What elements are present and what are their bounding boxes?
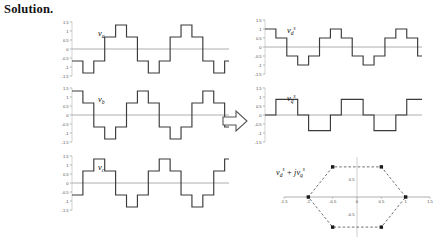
svg-text:0: 0 [66,181,69,186]
hexagon-title: vds + jvqs [276,166,305,178]
chart-v-d-s: 1.510.50-0.5-1-1.5vds [248,16,426,80]
svg-text:-1: -1 [65,199,69,204]
svg-text:1.5: 1.5 [63,154,69,159]
svg-text:0: 0 [66,47,69,52]
svg-text:vqs: vqs [287,93,296,105]
svg-text:1.5: 1.5 [256,86,262,91]
page-title: Solution. [4,2,53,17]
svg-text:-1: -1 [65,65,69,70]
svg-text:vb: vb [98,94,105,105]
svg-text:0: 0 [66,113,69,118]
hexagon-title-sup1: s [282,166,284,172]
svg-text:-1.5: -1.5 [255,72,263,77]
chart-v-c: 1.510.50-0.5-1-1.5vc [56,152,233,216]
svg-text:-1.5: -1.5 [62,140,70,145]
svg-text:-1: -1 [258,131,262,136]
svg-text:-0.5: -0.5 [62,56,70,61]
svg-text:0.5: 0.5 [378,199,384,204]
svg-text:0: 0 [356,199,359,204]
hexagon-title-op: + j [287,168,297,177]
svg-text:0: 0 [259,113,262,118]
svg-text:vc: vc [98,162,105,173]
svg-text:0.5: 0.5 [349,177,355,182]
right-arrow-icon [222,109,248,133]
svg-text:-0.5: -0.5 [329,199,337,204]
chart-v-a: 1.510.50-0.5-1-1.5va [56,18,233,82]
svg-text:1: 1 [66,29,69,34]
svg-text:-0.5: -0.5 [347,212,355,217]
svg-text:1: 1 [259,95,262,100]
svg-text:-0.5: -0.5 [255,122,263,127]
svg-text:0: 0 [259,45,262,50]
svg-text:1: 1 [66,163,69,168]
svg-text:-1: -1 [258,63,262,68]
svg-text:1.5: 1.5 [63,86,69,91]
svg-text:0.5: 0.5 [256,104,262,109]
svg-text:0.5: 0.5 [63,38,69,43]
svg-text:0.5: 0.5 [63,104,69,109]
svg-text:vds: vds [287,25,296,37]
chart-v-b: 1.510.50-0.5-1-1.5vb [56,84,233,148]
svg-text:-1.5: -1.5 [280,199,288,204]
hexagon-title-sub1: d [280,172,283,178]
svg-text:-1.5: -1.5 [255,140,263,145]
svg-text:1.5: 1.5 [63,20,69,25]
svg-text:1.5: 1.5 [256,18,262,23]
svg-text:va: va [98,28,105,39]
svg-text:1: 1 [66,95,69,100]
svg-text:-0.5: -0.5 [62,122,70,127]
svg-text:1: 1 [405,199,408,204]
svg-text:-1.5: -1.5 [62,208,70,213]
chart-v-q-s: 1.510.50-0.5-1-1.5vqs [248,84,426,148]
svg-text:0.5: 0.5 [256,36,262,41]
svg-text:1: 1 [259,27,262,32]
page-root: Solution. 1.510.50-0.5-1-1.5va 1.510.50-… [0,0,434,243]
svg-text:-0.5: -0.5 [62,190,70,195]
hexagon-title-sup2: s [303,166,305,172]
svg-text:1.5: 1.5 [427,199,433,204]
svg-text:-1: -1 [65,131,69,136]
hexagon-title-sub2: q [300,172,303,178]
svg-text:-0.5: -0.5 [255,54,263,59]
svg-text:-1.5: -1.5 [62,74,70,79]
svg-text:0.5: 0.5 [63,172,69,177]
